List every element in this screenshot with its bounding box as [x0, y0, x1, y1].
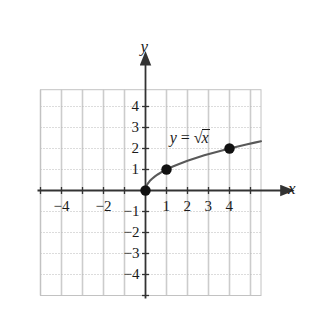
radicand: x: [202, 129, 210, 146]
y-tick-label: 4: [132, 99, 140, 114]
y-tick-label: −1: [124, 204, 140, 219]
x-tick-label: 1: [163, 199, 171, 214]
y-tick-label: 2: [132, 141, 140, 156]
y-tick-label: 3: [132, 120, 140, 135]
data-point: [224, 143, 234, 153]
x-tick-label: 4: [226, 199, 234, 214]
y-tick-label: −4: [124, 267, 140, 282]
x-tick-label: −2: [96, 199, 112, 214]
x-tick-label: −4: [54, 199, 70, 214]
y-tick-label: −3: [124, 246, 140, 261]
equation-operator: =: [181, 129, 190, 146]
grid-frame-rect: [41, 90, 262, 296]
y-axis-label: y: [141, 38, 149, 55]
grid-border: [41, 90, 262, 296]
data-point: [140, 185, 150, 195]
axes: [38, 64, 283, 299]
equation-lhs: y: [170, 129, 177, 146]
graph-figure: −4−212344321−1−2−3−4 y = √x x y: [0, 0, 320, 322]
grid-lines: [41, 90, 262, 296]
x-axis-label: x: [288, 180, 296, 197]
equation-annotation: y = √x: [170, 129, 210, 146]
radical-group: √x: [194, 129, 210, 146]
x-tick-label: 3: [205, 199, 213, 214]
y-tick-label: −2: [124, 225, 140, 240]
y-tick-label: 1: [132, 162, 140, 177]
coordinate-plane: [0, 0, 320, 322]
x-tick-label: 2: [184, 199, 192, 214]
data-point: [161, 164, 171, 174]
